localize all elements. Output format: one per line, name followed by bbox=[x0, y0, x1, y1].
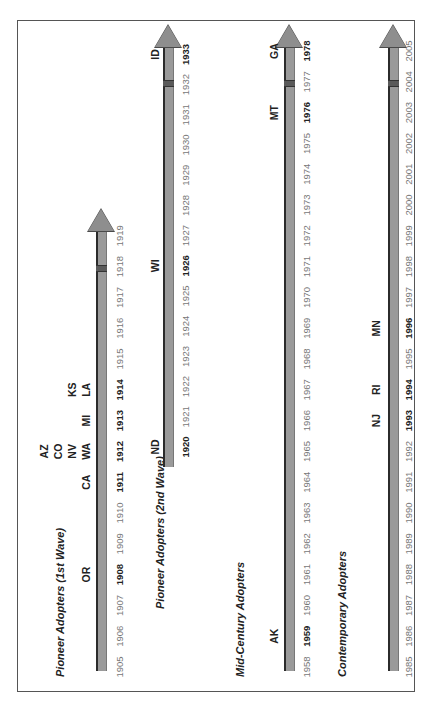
year-label: 1975 bbox=[301, 133, 312, 154]
year-label: 1961 bbox=[301, 564, 312, 585]
year-label: 2003 bbox=[403, 102, 414, 123]
year-label: 1995 bbox=[403, 348, 414, 369]
state-label-ak: AK bbox=[268, 629, 280, 644]
year-label: 1970 bbox=[301, 287, 312, 308]
year-label: 2001 bbox=[403, 164, 414, 185]
timeline-bar bbox=[388, 45, 399, 671]
year-label: 1926 bbox=[180, 255, 191, 276]
break-mark bbox=[284, 80, 295, 87]
year-label: 1988 bbox=[403, 564, 414, 585]
arrow-head bbox=[155, 25, 181, 47]
year-label: 1927 bbox=[180, 225, 191, 246]
year-label: 1994 bbox=[403, 379, 414, 400]
year-label: 1924 bbox=[180, 316, 191, 337]
state-label-id: ID bbox=[149, 49, 161, 60]
year-label: 1986 bbox=[403, 626, 414, 647]
year-label: 1932 bbox=[180, 74, 191, 95]
row-contemporary: Contemporary Adopters 198519861987198819… bbox=[18, 19, 118, 691]
timeline-bar bbox=[163, 45, 174, 467]
year-label: 1921 bbox=[180, 406, 191, 427]
state-label-nj: NJ bbox=[370, 414, 382, 427]
year-label: 1996 bbox=[403, 318, 414, 339]
year-label: 1990 bbox=[403, 502, 414, 523]
year-label: 1931 bbox=[180, 104, 191, 125]
year-label: 1992 bbox=[403, 441, 414, 462]
year-label: 1977 bbox=[301, 71, 312, 92]
year-label: 1958 bbox=[301, 656, 312, 677]
year-label: 1966 bbox=[301, 410, 312, 431]
year-label: 1929 bbox=[180, 165, 191, 186]
year-label: 1959 bbox=[301, 626, 312, 647]
break-mark bbox=[388, 80, 399, 87]
state-label-nd: ND bbox=[149, 439, 161, 454]
year-label: 1964 bbox=[301, 472, 312, 493]
year-label: 1920 bbox=[180, 436, 191, 457]
year-label: 2002 bbox=[403, 133, 414, 154]
year-label: 1985 bbox=[403, 656, 414, 677]
year-label: 1923 bbox=[180, 346, 191, 367]
row-title: Contemporary Adopters bbox=[336, 551, 348, 677]
year-label: 1962 bbox=[301, 533, 312, 554]
year-label: 1928 bbox=[180, 195, 191, 216]
year-label: 1968 bbox=[301, 348, 312, 369]
year-label: 1965 bbox=[301, 441, 312, 462]
year-label: 1971 bbox=[301, 256, 312, 277]
year-label: 2000 bbox=[403, 194, 414, 215]
year-label: 1991 bbox=[403, 472, 414, 493]
year-label: 1973 bbox=[301, 194, 312, 215]
year-label: 1999 bbox=[403, 225, 414, 246]
timeline-diagram: Pioneer Adopters (1st Wave) 190519061907… bbox=[17, 20, 415, 692]
year-label: 1930 bbox=[180, 134, 191, 155]
year-label: 1998 bbox=[403, 256, 414, 277]
year-label: 1925 bbox=[180, 285, 191, 306]
year-label: 1922 bbox=[180, 376, 191, 397]
state-label-ri: RI bbox=[370, 385, 382, 396]
row-title: Mid-Century Adopters bbox=[234, 562, 246, 677]
state-label-ga: GA bbox=[268, 43, 280, 59]
year-label: 1978 bbox=[301, 40, 312, 61]
timeline-bar bbox=[284, 45, 295, 671]
year-label: 1993 bbox=[403, 410, 414, 431]
year-label: 1933 bbox=[180, 44, 191, 65]
year-label: 1960 bbox=[301, 595, 312, 616]
year-label: 1976 bbox=[301, 102, 312, 123]
year-label: 1989 bbox=[403, 533, 414, 554]
year-label: 1969 bbox=[301, 318, 312, 339]
year-label: 1967 bbox=[301, 379, 312, 400]
year-label: 1997 bbox=[403, 287, 414, 308]
break-mark bbox=[163, 80, 174, 87]
state-label-wi: WI bbox=[149, 259, 161, 272]
row-title: Pioneer Adopters (2nd Wave) bbox=[154, 456, 166, 609]
state-label-mn: MN bbox=[370, 320, 382, 336]
year-label: 1974 bbox=[301, 164, 312, 185]
state-label-mt: MT bbox=[268, 105, 280, 120]
year-label: 2004 bbox=[403, 71, 414, 92]
year-label: 2005 bbox=[403, 40, 414, 61]
year-label: 1987 bbox=[403, 595, 414, 616]
year-label: 1963 bbox=[301, 502, 312, 523]
year-label: 1972 bbox=[301, 225, 312, 246]
